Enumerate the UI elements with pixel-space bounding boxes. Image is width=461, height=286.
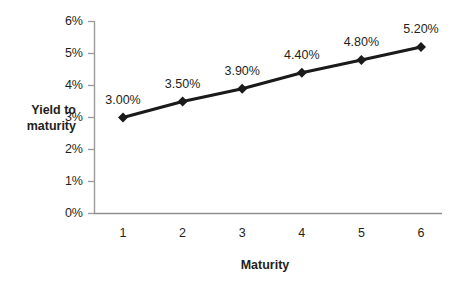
x-tick-label: 1	[108, 227, 138, 240]
data-point-marker	[356, 55, 366, 65]
data-point-marker	[237, 84, 247, 94]
x-tick-label: 5	[346, 227, 376, 240]
data-point-label: 3.00%	[93, 94, 153, 107]
data-point-label: 4.80%	[331, 36, 391, 49]
data-point-marker	[297, 68, 307, 78]
x-tick-label: 2	[168, 227, 198, 240]
data-point-marker	[118, 113, 128, 123]
data-point-label: 4.40%	[272, 49, 332, 62]
y-axis-title-line1: Yield to	[31, 103, 76, 117]
x-tick-label: 3	[227, 227, 257, 240]
y-tick-label: 0%	[49, 207, 83, 220]
data-point-label: 3.50%	[153, 78, 213, 91]
data-point-label: 3.90%	[212, 65, 272, 78]
y-axis-ticks	[88, 22, 94, 214]
data-point-marker	[178, 97, 188, 107]
x-tick-label: 6	[406, 227, 436, 240]
x-axis-title: Maturity	[215, 259, 315, 272]
data-point-label: 5.20%	[391, 23, 451, 36]
y-tick-label: 2%	[49, 143, 83, 156]
y-tick-label: 4%	[49, 79, 83, 92]
y-axis-title-line2: maturity	[27, 119, 76, 133]
x-tick-label: 4	[287, 227, 317, 240]
y-tick-label: 6%	[49, 15, 83, 28]
y-tick-label: 5%	[49, 47, 83, 60]
data-point-marker	[416, 42, 426, 52]
yield-curve-chart: 6% 5% 4% 3% 2% 1% 0% Yield to maturity 1…	[0, 0, 461, 286]
y-tick-label: 1%	[49, 175, 83, 188]
y-axis-title: Yield to maturity	[4, 103, 76, 134]
